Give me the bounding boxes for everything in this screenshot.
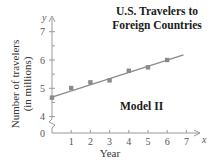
data-point-marker [127,69,131,73]
x-tick-label: 6 [165,136,170,147]
chart: U.S. Travelers to Foreign Countries Numb… [0,0,222,168]
y-tick-label: 7 [40,26,45,37]
data-point-marker [107,78,111,82]
y-tick-label: 4 [40,111,45,122]
data-point-marker [50,95,54,99]
origin-label: 0 [40,128,45,139]
y-tick-label: 5 [40,83,45,94]
x-tick-label: 3 [107,136,112,147]
data-point-marker [88,80,92,84]
data-point-marker [69,86,73,90]
data-point-marker [165,58,169,62]
y-axis-symbol: y [41,12,47,23]
x-tick-label: 4 [126,136,131,147]
y-tick-label: 6 [40,55,45,66]
model-fit-line [52,55,184,97]
x-tick-label: 7 [184,136,189,147]
x-tick-label: 2 [88,136,93,147]
plot-area: yx456701234567 [0,0,222,168]
x-tick-label: 5 [146,136,151,147]
y-axis-break-icon [49,119,55,133]
x-axis-symbol: x [201,134,207,145]
x-tick-label: 1 [69,136,74,147]
data-point-marker [146,65,150,69]
